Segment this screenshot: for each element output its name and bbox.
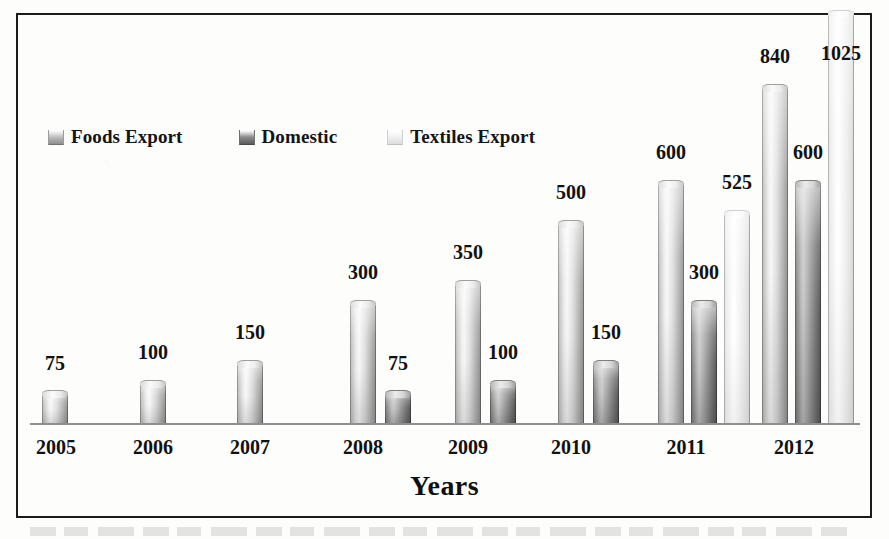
- bar-edge-left: [762, 87, 763, 423]
- bar-shading: [795, 183, 821, 423]
- bar-2007-foods-export[interactable]: [237, 363, 263, 423]
- bar-edge-right: [683, 183, 684, 423]
- x-tick-label-2005: 2005: [20, 436, 92, 459]
- bar-2012-textiles-export[interactable]: [828, 13, 854, 423]
- x-tick-label-2007: 2007: [214, 436, 286, 459]
- bar-2005-foods-export[interactable]: [42, 393, 68, 423]
- bar-2012-foods-export[interactable]: [762, 87, 788, 423]
- bar-edge-left: [385, 393, 386, 423]
- value-label-2012-domestic: 600: [781, 141, 835, 164]
- bar-edge-right: [67, 393, 68, 423]
- bar-edge-left: [455, 283, 456, 423]
- legend-item-foods-export[interactable]: Foods Export: [48, 126, 183, 148]
- bar-top-cap: [455, 280, 481, 288]
- bar-edge-right: [165, 383, 166, 423]
- value-label-2008-foods-export: 300: [336, 261, 390, 284]
- bar-edge-right: [515, 383, 516, 423]
- bar-top-cap: [490, 380, 516, 388]
- bar-top-cap: [593, 360, 619, 368]
- bar-top-cap: [724, 210, 750, 218]
- bar-shading: [140, 383, 166, 423]
- bar-2012-domestic[interactable]: [795, 183, 821, 423]
- bar-shading: [237, 363, 263, 423]
- bar-top-cap: [237, 360, 263, 368]
- value-label-2009-domestic: 100: [476, 341, 530, 364]
- legend-item-domestic[interactable]: Domestic: [239, 126, 338, 148]
- bar-top-cap: [558, 220, 584, 228]
- value-label-2011-domestic: 300: [677, 261, 731, 284]
- domestic-swatch-icon: [239, 130, 255, 145]
- bar-edge-left: [237, 363, 238, 423]
- x-tick-label-2011: 2011: [650, 436, 722, 459]
- bar-edge-left: [724, 213, 725, 423]
- value-label-2005-foods-export: 75: [30, 352, 80, 375]
- page-caption-remnant: [30, 527, 850, 536]
- bar-edge-right: [787, 87, 788, 423]
- bar-edge-left: [490, 383, 491, 423]
- x-tick-label-2009: 2009: [432, 436, 504, 459]
- bar-shading: [724, 213, 750, 423]
- bar-shading: [593, 363, 619, 423]
- bar-top-cap: [385, 390, 411, 398]
- bar-shading: [762, 87, 788, 423]
- bar-edge-left: [795, 183, 796, 423]
- bar-top-cap: [691, 300, 717, 308]
- bar-edge-right: [716, 303, 717, 423]
- value-label-2010-domestic: 150: [579, 321, 633, 344]
- legend-label-foods-export: Foods Export: [71, 126, 183, 148]
- legend-item-textiles-export[interactable]: Textiles Export: [387, 126, 535, 148]
- bar-edge-left: [658, 183, 659, 423]
- value-label-2012-foods-export: 840: [747, 45, 803, 68]
- legend-label-domestic: Domestic: [262, 126, 338, 148]
- bar-edge-left: [593, 363, 594, 423]
- bar-edge-right: [410, 393, 411, 423]
- textiles-swatch-icon: [387, 130, 403, 145]
- bar-2009-domestic[interactable]: [490, 383, 516, 423]
- x-tick-label-2010: 2010: [535, 436, 607, 459]
- bar-top-cap: [762, 84, 788, 92]
- bar-edge-left: [42, 393, 43, 423]
- bar-edge-right: [853, 13, 854, 423]
- bar-top-cap: [350, 300, 376, 308]
- value-label-2008-domestic: 75: [373, 352, 423, 375]
- bar-edge-left: [691, 303, 692, 423]
- legend-label-textiles-export: Textiles Export: [410, 126, 535, 148]
- bar-edge-right: [749, 213, 750, 423]
- bar-2006-foods-export[interactable]: [140, 383, 166, 423]
- bar-2011-foods-export[interactable]: [658, 183, 684, 423]
- chart-plot-area: Foods Export Domestic Textiles Export 75: [0, 0, 889, 539]
- bar-top-cap: [658, 180, 684, 188]
- bar-2011-textiles-export[interactable]: [724, 213, 750, 423]
- bar-edge-left: [558, 223, 559, 423]
- value-label-2006-foods-export: 100: [126, 341, 180, 364]
- value-label-2010-foods-export: 500: [544, 181, 598, 204]
- bar-top-cap: [828, 10, 854, 18]
- value-label-2011-foods-export: 600: [644, 141, 698, 164]
- bar-edge-right: [262, 363, 263, 423]
- value-label-2009-foods-export: 350: [441, 241, 495, 264]
- bar-shading: [490, 383, 516, 423]
- bar-edge-left: [140, 383, 141, 423]
- x-tick-label-2006: 2006: [117, 436, 189, 459]
- bar-top-cap: [140, 380, 166, 388]
- chart-legend: Foods Export Domestic Textiles Export: [48, 126, 535, 148]
- bar-top-cap: [795, 180, 821, 188]
- x-axis-title: Years: [0, 470, 889, 502]
- bar-edge-right: [618, 363, 619, 423]
- x-tick-label-2012: 2012: [758, 436, 830, 459]
- bar-top-cap: [42, 390, 68, 398]
- bar-edge-left: [828, 13, 829, 423]
- chart-page: Foods Export Domestic Textiles Export 75: [0, 0, 889, 539]
- category-axis-line: [30, 423, 860, 425]
- bar-edge-right: [820, 183, 821, 423]
- bar-edge-left: [350, 303, 351, 423]
- foods-swatch-icon: [48, 130, 64, 145]
- bar-shading: [658, 183, 684, 423]
- bar-shading: [691, 303, 717, 423]
- bar-2010-domestic[interactable]: [593, 363, 619, 423]
- value-label-2011-textiles-export: 525: [710, 171, 764, 194]
- bar-2008-domestic[interactable]: [385, 393, 411, 423]
- value-label-2012-textiles-export: 1025: [806, 42, 876, 65]
- bar-2011-domestic[interactable]: [691, 303, 717, 423]
- value-label-2007-foods-export: 150: [223, 321, 277, 344]
